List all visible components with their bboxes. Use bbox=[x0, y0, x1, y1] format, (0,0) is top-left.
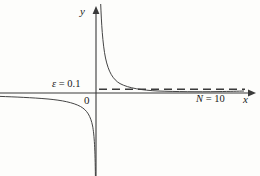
n-threshold-label: N = 10 bbox=[196, 94, 225, 105]
origin-label: 0 bbox=[84, 95, 90, 106]
x-axis-label: x bbox=[243, 94, 248, 105]
n-value: = 10 bbox=[203, 93, 225, 104]
epsilon-value: = 0.1 bbox=[56, 78, 80, 89]
y-axis-arrowhead bbox=[93, 6, 100, 14]
y-axis-label: y bbox=[80, 6, 85, 17]
y-axis bbox=[93, 6, 100, 176]
hyperbola-limit-figure: y x 0 ε = 0.1 N = 10 bbox=[0, 0, 260, 176]
hyperbola-branch-negative bbox=[0, 96, 95, 176]
epsilon-level-label: ε = 0.1 bbox=[52, 79, 80, 90]
n-symbol: N bbox=[196, 93, 203, 104]
plot-canvas bbox=[0, 0, 260, 176]
hyperbola-branch-positive bbox=[101, 4, 244, 92]
x-axis-arrowhead bbox=[248, 90, 256, 97]
